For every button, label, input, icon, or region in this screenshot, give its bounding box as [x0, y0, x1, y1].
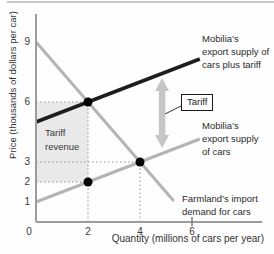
- y-tick-label-2: 2: [14, 176, 30, 187]
- origin-tick-label: 0: [21, 226, 37, 237]
- y-tick-label-9: 9: [14, 36, 30, 47]
- x-tick-label-2: 2: [80, 226, 96, 237]
- label-export-supply-plus-tariff: Mobilia’s export supply of cars plus tar…: [202, 32, 269, 71]
- y-tick-label-3: 3: [14, 156, 30, 167]
- tariff-callout-box: Tariff: [181, 94, 213, 111]
- point-q4-p3: [136, 158, 145, 167]
- point-q2-p2: [84, 178, 93, 187]
- y-axis-title: Price (thousands of dollars per car): [7, 10, 21, 160]
- label-tariff-revenue: Tariff revenue: [45, 126, 79, 154]
- y-tick-label-1: 1: [14, 196, 30, 207]
- tariff-chart-figure: Price (thousands of dollars per car) Qua…: [0, 0, 274, 254]
- x-tick-label-4: 4: [132, 226, 148, 237]
- y-tick-label-6: 6: [14, 96, 30, 107]
- point-q2-p6: [84, 98, 93, 107]
- tariff-callout-leader: [165, 106, 181, 114]
- label-export-supply: Mobilia’s export supply of cars: [202, 119, 259, 158]
- x-tick-label-6: 6: [184, 226, 200, 237]
- label-import-demand: Farmland’s import demand for cars: [182, 192, 258, 218]
